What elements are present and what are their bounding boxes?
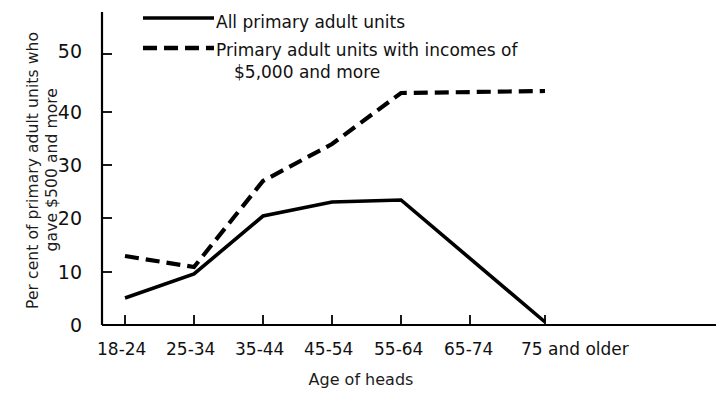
x-tick-marks	[125, 315, 545, 325]
series-line-primary-adult-units-income-5000-plus	[125, 91, 545, 267]
series-line-all-primary-adult-units	[125, 200, 545, 322]
chart-figure: Per cent of primary adult units who gave…	[0, 0, 722, 400]
y-tick-marks	[102, 54, 112, 272]
chart-plot-area	[0, 0, 722, 400]
